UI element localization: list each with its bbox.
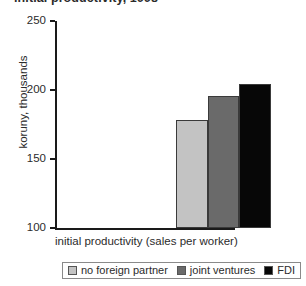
x-axis-line [55, 228, 235, 230]
y-tick-label: 100 [8, 222, 46, 234]
bar-no-foreign-partner [176, 120, 208, 228]
legend-item-fdi: FDI [264, 265, 295, 276]
legend-swatch-icon [264, 266, 273, 275]
legend-label: no foreign partner [81, 265, 168, 276]
chart-title-clip: initial productivity, 1998 [0, 0, 306, 6]
bar-joint-ventures [208, 96, 240, 228]
legend-item-no-foreign-partner: no foreign partner [68, 265, 168, 276]
x-axis-label: initial productivity (sales per worker) [55, 235, 237, 247]
chart-title: initial productivity, 1998 [14, 0, 158, 5]
chart-legend: no foreign partnerjoint venturesFDI [62, 262, 301, 279]
legend-swatch-icon [177, 266, 186, 275]
y-axis-label: koruny, thousands [17, 37, 29, 167]
bar-chart-figure: initial productivity, 1998 100150200250 … [0, 0, 306, 286]
legend-label: FDI [277, 265, 295, 276]
legend-swatch-icon [68, 266, 77, 275]
plot-area [55, 21, 234, 228]
legend-label: joint ventures [190, 265, 255, 276]
bar-fdi [239, 84, 271, 228]
y-tick-label: 250 [8, 15, 46, 27]
legend-item-joint-ventures: joint ventures [177, 265, 255, 276]
bar-group [176, 21, 271, 228]
